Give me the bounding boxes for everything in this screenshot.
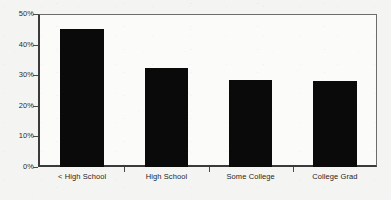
x-axis-category-label: College Grad	[293, 173, 377, 181]
x-axis-category-label: < High School	[40, 173, 124, 181]
y-axis-tick-label: 30%	[4, 71, 34, 79]
bar	[60, 29, 104, 167]
y-axis-tick-mark	[33, 106, 38, 107]
y-axis-tick-label: 20%	[4, 102, 34, 110]
x-axis-category-label: Some College	[209, 173, 293, 181]
y-axis-tick-label: 10%	[4, 133, 34, 141]
y-axis-tick-mark	[33, 167, 38, 168]
bar-chart-figure: 0%10%20%30%40%50% < High SchoolHigh Scho…	[0, 0, 391, 200]
x-axis-category-label: High School	[124, 173, 208, 181]
y-axis-tick-label: 40%	[4, 41, 34, 49]
y-axis-tick-mark	[33, 14, 38, 15]
bar	[313, 81, 357, 167]
bar	[145, 68, 189, 168]
y-axis-tick-mark	[33, 45, 38, 46]
y-axis-tick-label: 50%	[4, 10, 34, 18]
y-axis-tick-mark	[33, 75, 38, 76]
x-axis-tick-mark	[209, 167, 210, 172]
bars-group	[40, 15, 377, 167]
x-axis-tick-mark	[293, 167, 294, 172]
bar	[229, 80, 273, 167]
x-axis-tick-mark	[124, 167, 125, 172]
y-axis-tick-label: 0%	[4, 163, 34, 171]
y-axis-tick-mark	[33, 136, 38, 137]
